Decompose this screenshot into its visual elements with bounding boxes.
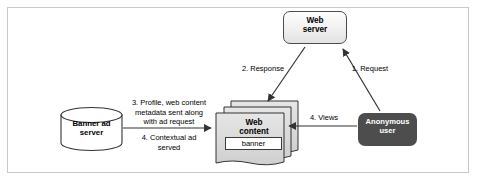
node-anonymous-user[interactable] xyxy=(358,113,417,146)
node-banner-label: banner xyxy=(225,139,282,148)
edge-response-line xyxy=(268,47,305,101)
diagram-canvas xyxy=(0,0,478,181)
diagram-root: Web server Banner ad server Web content … xyxy=(0,0,478,181)
node-web-server[interactable] xyxy=(283,11,347,44)
edge-request-line xyxy=(343,49,380,111)
web-content-stack-shape xyxy=(216,101,298,165)
banner-ad-server-shape xyxy=(61,108,122,151)
